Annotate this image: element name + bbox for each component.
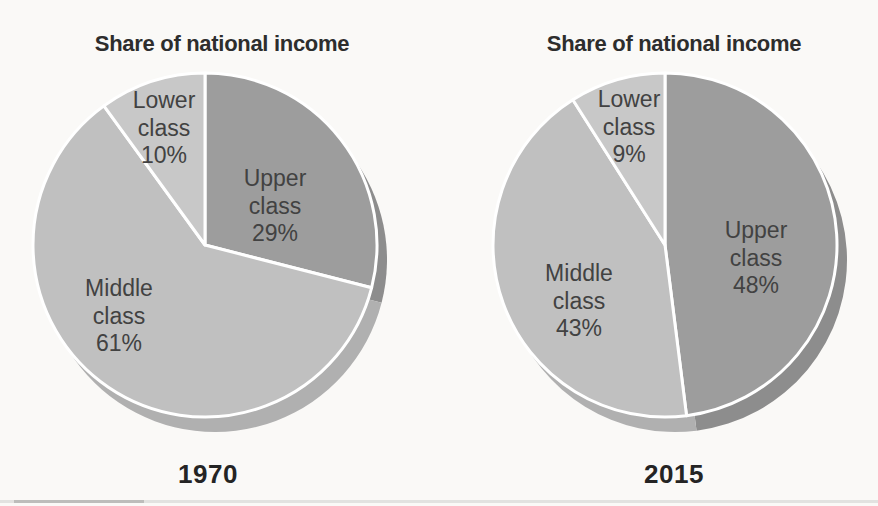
slice-label-lower-class-line2: class (138, 115, 190, 141)
slice-label-upper-class-line2: class (730, 245, 782, 271)
pie-chart-2015: Upperclass48%Middleclass43%Lowerclass9% (479, 59, 859, 439)
slice-label-upper-class-line2: class (249, 193, 301, 219)
slice-label-lower-class-line2: class (603, 114, 655, 140)
slice-label-middle-class-line2: class (93, 303, 145, 329)
slice-label-middle-class-line2: class (553, 288, 605, 314)
year-label-1970: 1970 (178, 459, 238, 490)
slice-label-lower-class-line3: 10% (141, 142, 187, 168)
slice-label-middle-class-line1: Middle (85, 275, 153, 301)
slice-label-upper-class-line3: 29% (252, 220, 298, 246)
slice-label-upper-class-line1: Upper (725, 217, 788, 243)
slice-label-middle-class-line3: 43% (556, 315, 602, 341)
slice-label-middle-class-line1: Middle (545, 260, 613, 286)
slice-label-lower-class-line1: Lower (133, 87, 196, 113)
scan-edge-line-dark (14, 500, 144, 503)
chart-title-2015: Share of national income (547, 31, 801, 57)
year-label-2015: 2015 (644, 459, 704, 490)
slice-label-middle-class-line3: 61% (96, 330, 142, 356)
slice-label-upper-class-line3: 48% (733, 272, 779, 298)
slice-label-upper-class-line1: Upper (244, 165, 307, 191)
pie-chart-1970: Upperclass29%Middleclass61%Lowerclass10% (19, 59, 399, 439)
chart-title-1970: Share of national income (95, 31, 349, 57)
slice-label-lower-class-line3: 9% (612, 141, 645, 167)
slice-label-lower-class-line1: Lower (598, 86, 661, 112)
